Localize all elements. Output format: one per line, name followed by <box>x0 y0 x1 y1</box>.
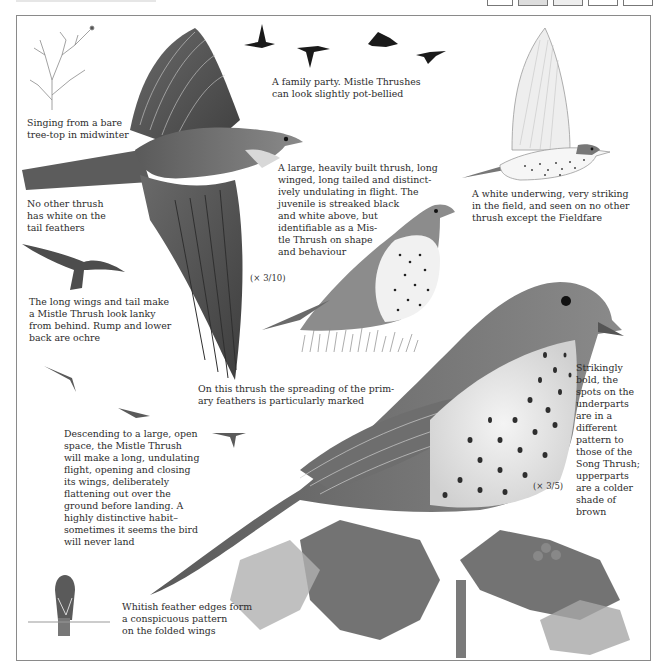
caption-line: juvenile is streaked black <box>278 198 438 210</box>
caption-primaries: On this thrush the spreading of the prim… <box>198 383 394 407</box>
caption-line: winged, long tailed and distinct- <box>278 174 438 186</box>
caption-juvenile: A large, heavily built thrush, long wing… <box>278 162 438 258</box>
caption-line: in the field, and seen on no other <box>472 200 629 212</box>
caption-line: Descending to a large, open <box>64 428 199 440</box>
caption-line: The long wings and tail make <box>29 296 171 308</box>
caption-line: bold, the <box>576 374 640 386</box>
caption-line: are a colder <box>576 482 640 494</box>
caption-line: spots on the <box>576 386 640 398</box>
flying-thrush-rear <box>22 244 125 290</box>
caption-tail-feathers: No other thrush has white on the tail fe… <box>27 198 106 234</box>
caption-folded-wings: Whitish feather edges form a conspicuous… <box>122 601 252 637</box>
caption-line: A white underwing, very striking <box>472 188 629 200</box>
caption-line: its wings, deliberately <box>64 476 199 488</box>
caption-line: identifiable as a Mis- <box>278 222 438 234</box>
caption-line: thrush except the Fieldfare <box>472 212 629 224</box>
caption-spots: Strikingly bold, the spots on the underp… <box>576 362 640 518</box>
caption-line: those of the <box>576 446 640 458</box>
caption-line: A family party. Mistle Thrushes <box>272 76 421 88</box>
caption-line: brown <box>576 506 640 518</box>
caption-line: and white above, but <box>278 210 438 222</box>
caption-line: back are ochre <box>29 332 171 344</box>
caption-line: flight, opening and closing <box>64 464 199 476</box>
caption-line: and behaviour <box>278 246 438 258</box>
caption-line: tle Thrush on shape <box>278 234 438 246</box>
perched-thrush-rear-view <box>28 575 110 636</box>
caption-line: pattern to <box>576 434 640 446</box>
caption-line: on the folded wings <box>122 625 252 637</box>
caption-line: a Mistle Thrush look lanky <box>29 308 171 320</box>
caption-line: has white on the <box>27 210 106 222</box>
bare-tree-icon <box>30 26 94 110</box>
caption-line: sometimes it seems the bird <box>64 524 199 536</box>
caption-line: a conspicuous pattern <box>122 613 252 625</box>
scale-label-flight: (× 3/10) <box>250 273 286 283</box>
caption-line: underparts <box>576 398 640 410</box>
caption-line: flattening out over the <box>64 488 199 500</box>
caption-line: shade of <box>576 494 640 506</box>
caption-line: ground before landing. A <box>64 500 199 512</box>
caption-line: can look slightly pot-bellied <box>272 88 421 100</box>
caption-line: highly distinctive habit– <box>64 512 199 524</box>
caption-line: different <box>576 422 640 434</box>
flying-thrush-underwing <box>462 28 610 180</box>
caption-line: space, the Mistle Thrush <box>64 440 199 452</box>
caption-line: Whitish feather edges form <box>122 601 252 613</box>
caption-tree-top: Singing from a bare tree-top in midwinte… <box>27 117 129 141</box>
caption-line: from behind. Rump and lower <box>29 320 171 332</box>
caption-line: Singing from a bare <box>27 117 129 129</box>
caption-line: Song Thrush; <box>576 458 640 470</box>
caption-line: upperparts <box>576 470 640 482</box>
caption-line: ary feathers is particularly marked <box>198 395 394 407</box>
flock-silhouettes-icon <box>244 24 446 68</box>
caption-line: will never land <box>64 536 199 548</box>
caption-line: will make a long, undulating <box>64 452 199 464</box>
caption-line: Strikingly <box>576 362 640 374</box>
caption-line: tail feathers <box>27 222 106 234</box>
caption-line: ively undulating in flight. The <box>278 186 438 198</box>
caption-underwing: A white underwing, very striking in the … <box>472 188 629 224</box>
caption-line: A large, heavily built thrush, long <box>278 162 438 174</box>
caption-line: No other thrush <box>27 198 106 210</box>
caption-line: On this thrush the spreading of the prim… <box>198 383 394 395</box>
caption-descending: Descending to a large, open space, the M… <box>64 428 199 548</box>
caption-lanky: The long wings and tail make a Mistle Th… <box>29 296 171 344</box>
caption-line: tree-top in midwinter <box>27 129 129 141</box>
holly-branch <box>230 520 630 658</box>
scale-label-perched: (× 3/5) <box>533 481 563 491</box>
caption-family-party: A family party. Mistle Thrushes can look… <box>272 76 421 100</box>
caption-line: are in a <box>576 410 640 422</box>
